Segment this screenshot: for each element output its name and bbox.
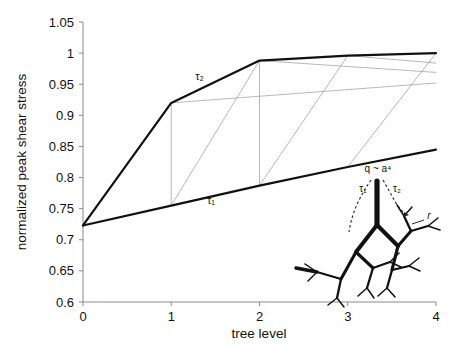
y-tick-label: 0.8 [56, 170, 74, 185]
tree-branch-l2-d [398, 231, 411, 246]
tree-branch-l3-b [337, 279, 341, 298]
tree-branch-l1-right [377, 225, 398, 246]
radius-marker-line [412, 220, 424, 224]
connector-line [260, 61, 437, 73]
y-tick-label: 0.6 [56, 295, 74, 310]
tree-branch-l3-e [387, 270, 392, 288]
x-axis-ticks: 01234 [79, 302, 439, 324]
x-tick-label: 1 [168, 309, 175, 324]
tree-branch-l3-d [373, 262, 390, 268]
y-tick-label: 0.75 [49, 201, 74, 216]
y-tick-label: 1 [67, 46, 74, 61]
flow-rate-label: q ~ a⁴ [365, 163, 392, 174]
x-axis-title: tree level [232, 326, 287, 341]
inset-tau1-label: τ₁ [359, 183, 367, 194]
chart-svg: 0.60.650.70.750.80.850.90.9511.05 01234 … [0, 0, 451, 348]
tree-branch-l1-left [356, 225, 377, 252]
y-axis-ticks: 0.60.650.70.750.80.850.90.9511.05 [49, 15, 83, 310]
connector-line [348, 53, 436, 167]
tree-branch-l2-a [341, 252, 356, 279]
tree-branch-l2-b [356, 252, 373, 268]
y-axis-title: normalized peak shear stress [14, 74, 29, 251]
x-tick-label: 2 [256, 309, 263, 324]
tree-branch-l3-c [367, 268, 373, 288]
tree-branch-left-stub [296, 268, 317, 272]
x-tick-label: 3 [344, 309, 351, 324]
y-tick-label: 0.9 [56, 108, 74, 123]
x-tick-label: 4 [432, 309, 439, 324]
tree-branch-l3-g [404, 216, 411, 231]
tree-branch-l3-a [317, 272, 341, 279]
y-tick-label: 0.95 [49, 77, 74, 92]
connector-line [348, 56, 436, 63]
connector-line [260, 56, 348, 186]
connector-line [171, 83, 436, 103]
y-tick-label: 0.7 [56, 232, 74, 247]
x-tick-label: 0 [79, 309, 86, 324]
tree-twigs [305, 205, 440, 307]
inset-radius-label: r [427, 210, 431, 221]
chart-figure: 0.60.650.70.750.80.850.90.9511.05 01234 … [0, 0, 451, 348]
y-tick-label: 0.65 [49, 263, 74, 278]
series-label-tau_2: τ₂ [195, 70, 204, 82]
y-tick-label: 0.85 [49, 139, 74, 154]
tree-branch-l3-h [411, 226, 428, 231]
inset-tau2-label: τ₂ [393, 183, 401, 194]
branching-tree-diagram: q ~ a⁴ τ₁ τ₂ r [296, 163, 440, 307]
y-tick-label: 1.05 [49, 15, 74, 30]
series-label-tau_1: τ₁ [207, 194, 215, 206]
